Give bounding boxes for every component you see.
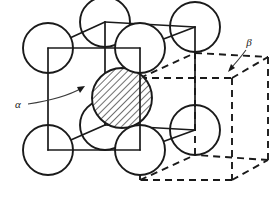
figure-canvas: α β	[0, 0, 274, 199]
alpha-leader	[28, 86, 85, 104]
beta-cell-edge-depth-bottom-right	[232, 160, 268, 180]
crystal-structure-figure: α β	[0, 0, 274, 199]
alpha-leader-line	[28, 88, 82, 104]
alpha-phase-label: α	[15, 98, 21, 110]
beta-leader	[228, 50, 246, 72]
beta-cell-edge-back-top	[195, 53, 268, 57]
beta-phase-label: β	[245, 36, 252, 48]
